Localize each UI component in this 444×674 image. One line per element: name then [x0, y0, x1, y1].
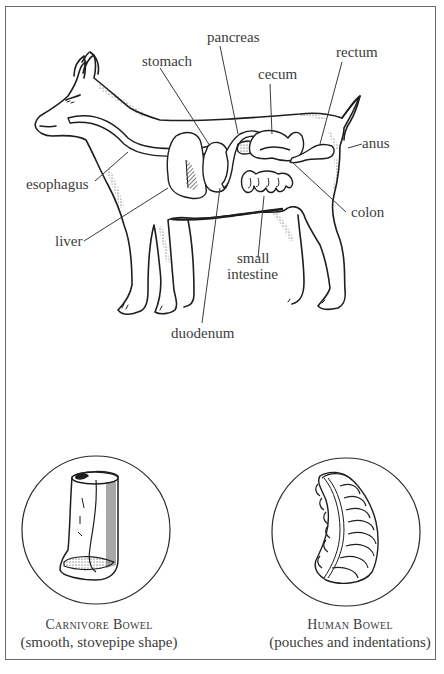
- dog-mouth: [40, 126, 56, 127]
- label-small-intestine-line2: intestine: [227, 267, 278, 282]
- label-rectum: rectum: [336, 45, 378, 60]
- label-duodenum: duodenum: [171, 326, 234, 341]
- human-bowel-title: Human Bowel: [262, 617, 438, 634]
- label-pancreas: pancreas: [207, 30, 259, 45]
- label-small-intestine-line1: small: [237, 251, 270, 266]
- label-cecum: cecum: [258, 67, 297, 82]
- label-anus: anus: [362, 136, 390, 151]
- human-bowel-description: (pouches and indentations): [262, 634, 438, 652]
- label-liver: liver: [55, 234, 83, 249]
- carnivore-bowel-illustration: [22, 456, 170, 604]
- label-esophagus: esophagus: [26, 177, 89, 192]
- carnivore-bowel-description: (smooth, stovepipe shape): [6, 634, 192, 652]
- carnivore-bowel-title: Carnivore Bowel: [6, 617, 192, 634]
- caption-human-bowel: Human Bowel (pouches and indentations): [262, 617, 438, 651]
- label-colon: colon: [351, 205, 384, 220]
- caption-carnivore-bowel: Carnivore Bowel (smooth, stovepipe shape…: [6, 617, 192, 651]
- label-stomach: stomach: [142, 54, 192, 69]
- human-bowel-illustration: [272, 458, 420, 606]
- small-intestine-shape: [242, 171, 293, 193]
